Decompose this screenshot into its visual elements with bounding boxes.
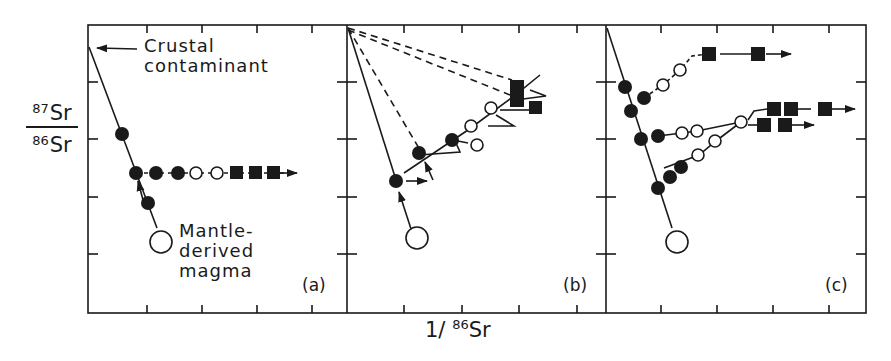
panel-c-plot <box>607 28 855 253</box>
mantle-magma-circle <box>150 231 172 253</box>
filled-circle <box>637 91 651 105</box>
filled-circle <box>618 80 632 94</box>
open-circle <box>691 125 703 137</box>
filled-square <box>767 102 781 116</box>
open-circle <box>692 149 704 161</box>
y-axis-numerator: 87Sr <box>24 98 80 124</box>
open-circle <box>465 120 477 132</box>
filled-circle <box>412 146 426 160</box>
filled-circle <box>674 160 688 174</box>
panel-b-plot <box>348 28 546 249</box>
filled-circle <box>129 166 143 180</box>
open-circle <box>471 139 483 151</box>
filled-square <box>784 102 798 116</box>
mantle-magma-circle <box>666 231 688 253</box>
filled-circle <box>389 174 403 188</box>
filled-circle <box>115 127 129 141</box>
filled-square <box>702 47 716 61</box>
filled-circle <box>445 133 459 147</box>
open-circle <box>657 79 669 91</box>
open-circle <box>190 167 202 179</box>
panel-label-c: (c) <box>825 275 848 295</box>
panel-label-b: (b) <box>563 275 587 295</box>
filled-circle <box>171 166 185 180</box>
filled-circle <box>663 170 677 184</box>
y-axis-denominator: 86Sr <box>24 130 80 156</box>
filled-square <box>267 166 280 179</box>
mantle-magma-circle <box>406 227 428 249</box>
filled-square <box>757 118 771 132</box>
mantle-magma-label: Mantle- derived magma <box>179 221 254 281</box>
ticks-panel-c <box>606 25 866 313</box>
open-circle <box>485 102 497 114</box>
filled-square <box>818 102 832 116</box>
x-axis-label: 1/ 86Sr <box>425 317 491 342</box>
filled-circle <box>149 166 163 180</box>
filled-circle <box>624 104 638 118</box>
filled-square <box>529 101 542 114</box>
filled-square <box>249 166 262 179</box>
open-circle <box>674 64 686 76</box>
filled-square <box>510 80 524 107</box>
open-circle <box>735 116 747 128</box>
filled-circle <box>651 129 665 143</box>
y-axis-label: 87Sr 86Sr <box>24 98 80 156</box>
open-circle <box>211 167 223 179</box>
open-circle <box>676 127 688 139</box>
filled-circle <box>651 181 665 195</box>
sr-isotope-diagram <box>0 0 891 361</box>
filled-square <box>751 47 765 61</box>
crustal-contaminant-label: Crustal contaminant <box>144 36 269 76</box>
filled-circle <box>634 132 648 146</box>
filled-circle <box>141 196 155 210</box>
open-circle <box>709 135 721 147</box>
filled-square <box>778 118 792 132</box>
fraction-bar <box>26 126 78 128</box>
panel-label-a: (a) <box>302 275 326 295</box>
filled-square <box>230 166 243 179</box>
